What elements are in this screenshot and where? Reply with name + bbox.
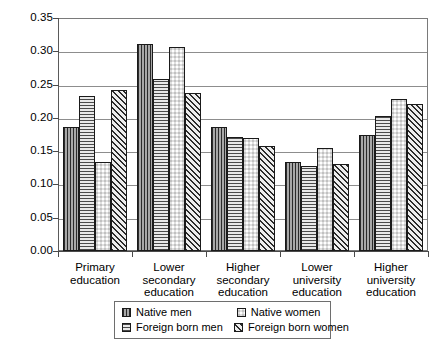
x-tick-label: Higheruniversityeducation [348, 261, 434, 299]
bar [317, 148, 333, 251]
bar [137, 44, 153, 251]
bar [211, 127, 227, 251]
y-tick-label: 0.15 [7, 145, 53, 157]
x-tick-mark [58, 251, 59, 257]
legend-row-2: Foreign born men Foreign born women [122, 320, 330, 335]
y-tick-label: 0.35 [7, 12, 53, 24]
bar [153, 79, 169, 251]
legend-item-foreign-born-men: Foreign born men [122, 320, 234, 335]
bar-group [280, 18, 354, 251]
bar [375, 116, 391, 251]
legend-item-foreign-born-women: Foreign born women [234, 320, 330, 335]
bar [63, 127, 79, 251]
bar [359, 135, 375, 252]
bar [333, 164, 349, 251]
bar [227, 137, 243, 251]
legend-row-1: Native men Native women [122, 305, 330, 320]
y-tick-label: 0.00 [7, 245, 53, 257]
bar [285, 162, 301, 251]
bar [185, 93, 201, 251]
bar-group [132, 18, 206, 251]
y-tick-label: 0.10 [7, 178, 53, 190]
legend-swatch-icon-native-men [122, 308, 131, 317]
bar [111, 90, 127, 251]
x-tick-label-line: education [348, 286, 434, 299]
y-tick-label: 0.30 [7, 45, 53, 57]
y-tick-label: 0.20 [7, 112, 53, 124]
x-tick-mark [206, 251, 207, 257]
legend: Native men Native women Foreign born men… [114, 301, 331, 339]
legend-swatch-icon-foreign-born-men [122, 323, 131, 332]
x-tick-mark [132, 251, 133, 257]
x-tick-mark [280, 251, 281, 257]
grouped-bar-chart: 0.350.300.250.200.150.100.050.00 Primary… [0, 0, 444, 350]
bar [79, 96, 95, 251]
x-tick-mark [354, 251, 355, 257]
legend-label-native-women: Native women [251, 307, 321, 318]
y-tick-label: 0.05 [7, 212, 53, 224]
legend-swatch-icon-native-women [237, 308, 246, 317]
x-tick-label-line: university [348, 274, 434, 287]
bar [407, 104, 423, 251]
bar [95, 162, 111, 251]
x-axis-line [58, 251, 429, 252]
y-axis-labels: 0.350.300.250.200.150.100.050.00 [0, 0, 53, 350]
bar [243, 138, 259, 251]
bar [391, 99, 407, 251]
legend-item-native-women: Native women [237, 305, 330, 320]
y-tick-label: 0.25 [7, 79, 53, 91]
bar-groups [58, 18, 428, 251]
bar [169, 47, 185, 251]
legend-label-native-men: Native men [136, 307, 192, 318]
legend-swatch-icon-foreign-born-women [234, 323, 243, 332]
bar [301, 166, 317, 251]
legend-label-foreign-born-men: Foreign born men [136, 322, 223, 333]
bar-group [354, 18, 428, 251]
bar [259, 146, 275, 251]
bar-group [206, 18, 280, 251]
legend-label-foreign-born-women: Foreign born women [248, 322, 349, 333]
x-tick-label-line: Higher [348, 261, 434, 274]
legend-item-native-men: Native men [122, 305, 237, 320]
bar-group [58, 18, 132, 251]
x-tick-mark [428, 251, 429, 257]
